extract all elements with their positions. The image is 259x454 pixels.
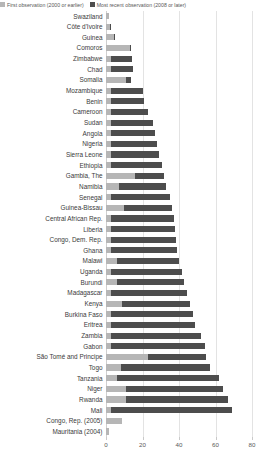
- bar-segment-most-recent-observation[interactable]: [148, 354, 206, 360]
- category-label: Ghana: [0, 247, 103, 254]
- bar-group[interactable]: [106, 290, 187, 296]
- bar-segment-first-observation[interactable]: [106, 13, 109, 19]
- bar-segment-most-recent-observation[interactable]: [111, 322, 195, 328]
- legend-most-recent-observation[interactable]: Most recent observation (2008 or later): [90, 2, 186, 8]
- bar-segment-first-observation[interactable]: [106, 386, 126, 392]
- bar-segment-most-recent-observation[interactable]: [121, 364, 210, 370]
- bar-segment-first-observation[interactable]: [106, 34, 114, 40]
- bar-group[interactable]: [106, 311, 193, 317]
- bar-group[interactable]: [106, 141, 157, 147]
- bar-segment-most-recent-observation[interactable]: [111, 141, 157, 147]
- bar-segment-most-recent-observation[interactable]: [111, 130, 155, 136]
- bar-group[interactable]: [106, 162, 162, 168]
- bar-segment-most-recent-observation[interactable]: [111, 109, 148, 115]
- bar-group[interactable]: [106, 56, 132, 62]
- bar-segment-first-observation[interactable]: [106, 279, 117, 285]
- bar-segment-most-recent-observation[interactable]: [111, 66, 133, 72]
- bar-group[interactable]: [106, 322, 195, 328]
- bar-segment-most-recent-observation[interactable]: [111, 151, 158, 157]
- bar-segment-first-observation[interactable]: [106, 77, 126, 83]
- bar-group[interactable]: [106, 183, 166, 189]
- bar-segment-most-recent-observation[interactable]: [135, 173, 164, 179]
- bar-group[interactable]: [106, 354, 206, 360]
- bar-group[interactable]: [106, 77, 131, 83]
- bar-segment-most-recent-observation[interactable]: [111, 88, 143, 94]
- bar-segment-first-observation[interactable]: [106, 396, 126, 402]
- bar-segment-most-recent-observation[interactable]: [117, 375, 219, 381]
- bar-group[interactable]: [106, 66, 133, 72]
- bar-segment-most-recent-observation[interactable]: [117, 258, 179, 264]
- bar-group[interactable]: [106, 109, 148, 115]
- bar-segment-most-recent-observation[interactable]: [126, 386, 223, 392]
- bar-segment-first-observation[interactable]: [106, 173, 135, 179]
- bar-group[interactable]: [106, 45, 131, 51]
- bar-segment-most-recent-observation[interactable]: [119, 183, 166, 189]
- bar-segment-most-recent-observation[interactable]: [111, 237, 176, 243]
- bar-group[interactable]: [106, 215, 174, 221]
- bar-group[interactable]: [106, 98, 144, 104]
- bar-segment-most-recent-observation[interactable]: [111, 215, 174, 221]
- bar-segment-most-recent-observation[interactable]: [111, 194, 169, 200]
- bar-group[interactable]: [106, 120, 153, 126]
- bar-row: Mauritania (2004): [0, 426, 259, 436]
- bar-segment-most-recent-observation[interactable]: [124, 205, 171, 211]
- bar-segment-most-recent-observation[interactable]: [117, 279, 185, 285]
- bar-segment-most-recent-observation[interactable]: [130, 45, 131, 51]
- bar-segment-first-observation[interactable]: [106, 301, 122, 307]
- bar-segment-most-recent-observation[interactable]: [111, 290, 187, 296]
- bar-segment-most-recent-observation[interactable]: [111, 162, 161, 168]
- bar-group[interactable]: [106, 151, 159, 157]
- bar-group[interactable]: [106, 24, 111, 30]
- bar-segment-most-recent-observation[interactable]: [111, 407, 231, 413]
- bar-group[interactable]: [106, 205, 172, 211]
- bar-segment-first-observation[interactable]: [106, 418, 122, 424]
- bar-group[interactable]: [106, 34, 115, 40]
- bar-group[interactable]: [106, 386, 223, 392]
- bar-segment-most-recent-observation[interactable]: [111, 333, 200, 339]
- bar-group[interactable]: [106, 375, 219, 381]
- bar-segment-most-recent-observation[interactable]: [111, 120, 152, 126]
- bar-group[interactable]: [106, 13, 109, 19]
- bar-segment-most-recent-observation[interactable]: [111, 269, 181, 275]
- bar-segment-first-observation[interactable]: [106, 354, 148, 360]
- bar-group[interactable]: [106, 88, 143, 94]
- bar-segment-first-observation[interactable]: [106, 258, 117, 264]
- bar-group[interactable]: [106, 418, 122, 424]
- bar-segment-most-recent-observation[interactable]: [126, 396, 228, 402]
- bar-group[interactable]: [106, 364, 210, 370]
- bar-group[interactable]: [106, 226, 175, 232]
- bar-group[interactable]: [106, 301, 190, 307]
- bar-group[interactable]: [106, 247, 177, 253]
- bar-segment-most-recent-observation[interactable]: [111, 98, 145, 104]
- bar-group[interactable]: [106, 194, 170, 200]
- bar-group[interactable]: [106, 173, 164, 179]
- bar-segment-first-observation[interactable]: [106, 375, 117, 381]
- bar-group[interactable]: [106, 343, 205, 349]
- bar-group[interactable]: [106, 237, 176, 243]
- bar-segment-most-recent-observation[interactable]: [111, 311, 192, 317]
- bar-segment-first-observation[interactable]: [106, 428, 109, 434]
- bar-group[interactable]: [106, 258, 179, 264]
- bar-group[interactable]: [106, 428, 109, 434]
- bar-group[interactable]: [106, 396, 228, 402]
- bar-segment-first-observation[interactable]: [106, 45, 130, 51]
- bar-segment-first-observation[interactable]: [106, 364, 121, 370]
- bar-group[interactable]: [106, 279, 184, 285]
- bar-segment-first-observation[interactable]: [106, 183, 119, 189]
- bar-group[interactable]: [106, 407, 232, 413]
- bar-segment-most-recent-observation[interactable]: [110, 24, 111, 30]
- bar-segment-most-recent-observation[interactable]: [111, 247, 177, 253]
- bar-group[interactable]: [106, 333, 201, 339]
- bar-segment-first-observation[interactable]: [106, 205, 124, 211]
- bar-group[interactable]: [106, 269, 182, 275]
- legend-first-observation[interactable]: First observation (2000 or earlier): [0, 2, 84, 8]
- bar-group[interactable]: [106, 130, 155, 136]
- bar-segment-most-recent-observation[interactable]: [111, 226, 175, 232]
- bar-segment-most-recent-observation[interactable]: [111, 56, 132, 62]
- category-label: Congo, Dem. Rep.: [0, 236, 103, 243]
- bar-segment-most-recent-observation[interactable]: [122, 301, 190, 307]
- bar-segment-most-recent-observation[interactable]: [111, 343, 204, 349]
- bar-segment-most-recent-observation[interactable]: [126, 77, 131, 83]
- axis-tick-label: 40: [167, 441, 191, 449]
- bar-segment-most-recent-observation[interactable]: [114, 34, 115, 40]
